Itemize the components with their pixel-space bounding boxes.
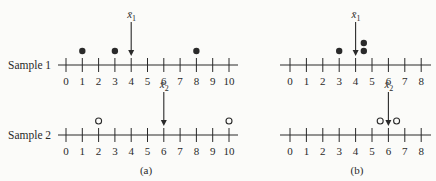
- tick-label: 2: [320, 145, 326, 157]
- number-line-sample-1: 012345678910x̄1: [58, 8, 238, 87]
- tick-label: 3: [336, 145, 342, 157]
- tick-label: 9: [210, 145, 216, 157]
- tick-label: 6: [161, 145, 167, 157]
- tick-label: 4: [128, 75, 134, 87]
- tick-label: 8: [418, 75, 424, 87]
- mean-arrow-head-icon: [161, 120, 167, 126]
- number-line-sample-1: 012345678x̄1: [280, 8, 431, 87]
- data-point-open: [377, 118, 383, 124]
- data-point-open: [96, 118, 102, 124]
- tick-label: 2: [96, 75, 102, 87]
- tick-label: 1: [80, 75, 86, 87]
- tick-label: 2: [320, 75, 326, 87]
- tick-label: 2: [96, 145, 102, 157]
- mean-arrow-head-icon: [353, 50, 359, 56]
- tick-label: 7: [177, 145, 183, 157]
- data-point-open: [394, 118, 400, 124]
- mean-arrow-head-icon: [385, 120, 391, 126]
- data-point-filled: [361, 40, 367, 46]
- row-label-sample-1: Sample 1: [8, 59, 51, 72]
- tick-label: 7: [402, 145, 408, 157]
- number-line-sample-2: 012345678910x̄2: [58, 78, 238, 157]
- tick-label: 1: [304, 145, 310, 157]
- data-point-filled: [336, 48, 342, 54]
- tick-label: 5: [369, 145, 375, 157]
- data-point-filled: [193, 48, 199, 54]
- mean-label-sample-1: x̄1: [126, 8, 136, 23]
- mean-arrow-head-icon: [128, 50, 134, 56]
- tick-label: 3: [112, 75, 118, 87]
- caption-a: (a): [140, 164, 153, 177]
- panel-b: 012345678x̄1012345678x̄2: [280, 8, 431, 157]
- caption-b: (b): [351, 164, 364, 177]
- data-point-filled: [361, 48, 367, 54]
- row-labels: Sample 1 Sample 2: [8, 59, 51, 142]
- tick-label: 0: [287, 75, 293, 87]
- tick-label: 7: [402, 75, 408, 87]
- tick-label: 0: [63, 75, 69, 87]
- tick-label: 3: [112, 145, 118, 157]
- tick-label: 1: [304, 75, 310, 87]
- data-point-filled: [112, 48, 118, 54]
- tick-label: 8: [194, 75, 200, 87]
- tick-label: 7: [177, 75, 183, 87]
- tick-label: 0: [287, 145, 293, 157]
- tick-label: 1: [80, 145, 86, 157]
- tick-label: 3: [336, 75, 342, 87]
- tick-label: 9: [210, 75, 216, 87]
- mean-label-sample-2: x̄2: [159, 78, 169, 93]
- row-label-sample-2: Sample 2: [8, 129, 51, 142]
- tick-label: 8: [418, 145, 424, 157]
- tick-label: 4: [353, 145, 359, 157]
- tick-label: 0: [63, 145, 69, 157]
- tick-label: 4: [128, 145, 134, 157]
- tick-label: 5: [145, 145, 151, 157]
- tick-label: 10: [224, 75, 236, 87]
- tick-label: 6: [386, 145, 392, 157]
- data-point-filled: [79, 48, 85, 54]
- tick-label: 8: [194, 145, 200, 157]
- mean-label-sample-2: x̄2: [383, 78, 393, 93]
- dot-plot-figure: Sample 1 Sample 2 012345678910x̄10123456…: [0, 0, 436, 181]
- tick-label: 4: [353, 75, 359, 87]
- number-line-sample-2: 012345678x̄2: [280, 78, 431, 157]
- panel-a: 012345678910x̄1012345678910x̄2: [58, 8, 238, 157]
- mean-label-sample-1: x̄1: [351, 8, 361, 23]
- tick-label: 5: [369, 75, 375, 87]
- data-point-open: [226, 118, 232, 124]
- tick-label: 5: [145, 75, 151, 87]
- tick-label: 10: [224, 145, 236, 157]
